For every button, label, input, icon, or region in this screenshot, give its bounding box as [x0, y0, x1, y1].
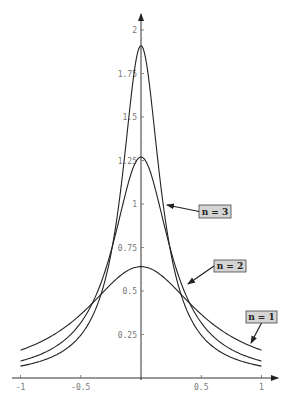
label-n=2: n = 2	[188, 260, 246, 284]
x-tick-label: 0.5	[194, 383, 209, 392]
y-tick-label: 1.5	[123, 113, 138, 122]
y-tick-label: 2	[132, 26, 137, 35]
y-tick-label: 0.75	[118, 244, 137, 253]
label-n=1: n = 1	[246, 311, 277, 343]
svg-text:n = 2: n = 2	[217, 261, 244, 271]
chart: -1-0.50.510.250.50.7511.251.51.752 n = 3…	[0, 0, 296, 410]
y-tick-label: 0.25	[118, 331, 137, 340]
svg-text:n = 1: n = 1	[248, 312, 275, 322]
label-n=3: n = 3	[167, 205, 231, 218]
annotations: n = 3n = 2n = 1	[167, 205, 277, 343]
arrow-icon	[188, 266, 214, 284]
arrow-icon	[251, 323, 262, 343]
y-tick-label: 0.5	[123, 287, 138, 296]
x-tick-label: 1	[259, 383, 264, 392]
y-tick-label: 1	[132, 200, 137, 209]
x-tick-label: -1	[16, 383, 26, 392]
x-tick-label: -0.5	[71, 383, 90, 392]
arrow-icon	[167, 205, 199, 212]
svg-text:n = 3: n = 3	[202, 207, 229, 217]
